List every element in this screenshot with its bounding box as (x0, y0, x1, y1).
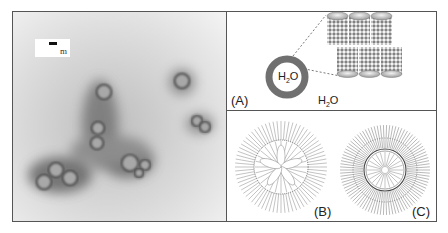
panel-a-schematic (0, 0, 448, 233)
panel-a-label: (A) (231, 94, 248, 107)
inner-water-label: H2O (278, 71, 298, 86)
micelle-b (235, 121, 327, 213)
panel-b-label: (B) (314, 205, 331, 218)
nanotube-array (327, 12, 402, 78)
outer-water-label: H2O (318, 95, 338, 110)
micelle-c (340, 125, 430, 215)
panel-c-label: (C) (412, 205, 430, 218)
